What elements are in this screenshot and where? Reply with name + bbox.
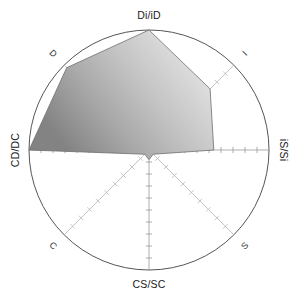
axis-label-axis-di-id: Di/iD — [137, 9, 161, 21]
axis-label-axis-is-si: iS/Si — [278, 139, 290, 162]
axis-label-axis-i: I — [240, 49, 249, 58]
axis-label-axis-s: S — [239, 240, 250, 251]
radar-chart: Di/iDIiS/SiSCS/SCCCD/DCD — [0, 0, 299, 298]
axis-label-axis-cd-dc: CD/DC — [9, 133, 21, 167]
axis-label-axis-c: C — [47, 240, 59, 252]
radar-chart-canvas: Di/iDIiS/SiSCS/SCCCD/DCD — [0, 0, 299, 298]
axis-label-axis-d: D — [47, 48, 59, 60]
axis-label-axis-cs-sc: CS/SC — [132, 278, 165, 290]
